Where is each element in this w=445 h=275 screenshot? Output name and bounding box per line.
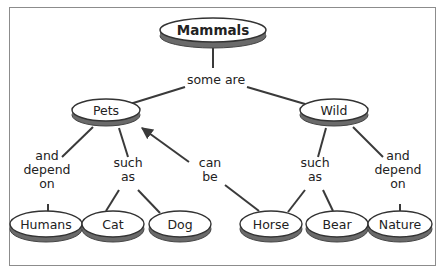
edge-pets-to-pets-depend — [62, 127, 93, 157]
node-cat[interactable]: Cat — [82, 211, 144, 242]
node-label: Horse — [253, 217, 290, 232]
link-label-line: as — [121, 169, 135, 184]
link-label-line: and — [35, 148, 59, 163]
link-label-line: such — [300, 155, 329, 170]
node-label: Wild — [321, 103, 348, 118]
node-horse[interactable]: Horse — [240, 211, 302, 242]
node-label: Cat — [102, 217, 123, 232]
node-label: Bear — [322, 217, 352, 232]
node-dog[interactable]: Dog — [149, 211, 211, 242]
edge-can-be-to-horse — [225, 185, 259, 211]
link-label-can-be: canbe — [199, 155, 221, 184]
edge-pets-such-to-cat — [106, 190, 119, 211]
link-label-line: some are — [187, 72, 246, 87]
node-wild[interactable]: Wild — [300, 99, 368, 126]
link-label-line: depend — [23, 162, 70, 177]
link-label-line: be — [202, 169, 218, 184]
link-label-line: as — [308, 169, 322, 184]
edge-pets-such-to-dog — [138, 190, 160, 213]
node-nature[interactable]: Nature — [368, 211, 432, 242]
link-label-line: on — [39, 176, 55, 191]
edge-some-are-to-wild — [247, 87, 305, 104]
node-humans[interactable]: Humans — [10, 211, 82, 242]
node-mammals[interactable]: Mammals — [160, 18, 266, 48]
link-label-line: such — [113, 155, 142, 170]
link-labels-layer: some areanddependonsuchascanbesuchasandd… — [23, 72, 421, 191]
link-label-line: on — [390, 176, 406, 191]
edge-can-be-to-pets — [142, 128, 189, 162]
edge-wild-such-to-bear — [323, 190, 333, 211]
node-label: Nature — [379, 217, 422, 232]
concept-map: MammalsPetsWildHumansCatDogHorseBearNatu… — [0, 0, 445, 275]
link-label-pets-such: suchas — [113, 155, 142, 184]
edge-wild-to-wild-such — [318, 128, 326, 157]
node-label: Humans — [20, 217, 72, 232]
edge-pets-to-pets-such — [119, 128, 128, 157]
edge-wild-such-to-horse — [288, 190, 305, 212]
link-label-line: can — [199, 155, 221, 170]
link-label-wild-such: suchas — [300, 155, 329, 184]
node-label: Pets — [93, 103, 119, 118]
link-label-line: depend — [374, 162, 421, 177]
node-label: Dog — [167, 217, 192, 232]
edge-wild-to-wild-depend — [353, 127, 383, 157]
edge-some-are-to-pets — [130, 87, 185, 104]
nodes-layer: MammalsPetsWildHumansCatDogHorseBearNatu… — [10, 18, 432, 242]
node-label: Mammals — [177, 22, 249, 38]
link-label-some-are: some are — [187, 72, 246, 87]
node-pets[interactable]: Pets — [72, 99, 140, 126]
node-bear[interactable]: Bear — [306, 211, 368, 242]
link-label-line: and — [386, 148, 410, 163]
